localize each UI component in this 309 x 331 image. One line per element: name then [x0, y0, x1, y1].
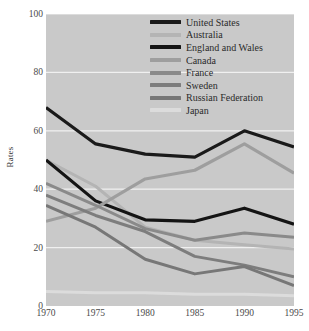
legend-item-label: France: [186, 67, 213, 78]
x-tick-label: 1985: [172, 308, 218, 318]
legend-item-label: Japan: [186, 105, 209, 116]
legend-color-swatch: [150, 58, 181, 62]
legend-item[interactable]: France: [150, 66, 300, 79]
legend-item-label: Canada: [186, 55, 216, 66]
x-tick-label: 1995: [271, 308, 309, 318]
legend-item[interactable]: Canada: [150, 54, 300, 67]
x-tick-label: 1975: [73, 308, 119, 318]
y-tick-label: 40: [13, 184, 43, 194]
y-tick-label: 20: [13, 243, 43, 253]
legend-color-swatch: [150, 33, 181, 37]
x-tick-label: 1990: [221, 308, 267, 318]
legend-color-swatch: [150, 108, 181, 112]
legend-item[interactable]: United States: [150, 16, 300, 29]
legend-item[interactable]: England and Wales: [150, 41, 300, 54]
y-tick-label: 60: [13, 126, 43, 136]
legend-color-swatch: [150, 20, 181, 24]
chart-legend: United StatesAustraliaEngland and WalesC…: [150, 16, 300, 117]
legend-item-label: Australia: [186, 29, 223, 40]
series-line: [46, 160, 294, 224]
legend-item[interactable]: Australia: [150, 29, 300, 42]
x-tick-label: 1980: [122, 308, 168, 318]
y-tick-label: 100: [13, 9, 43, 19]
y-axis-tick-labels: 020406080100: [10, 0, 43, 331]
y-tick-label: 80: [13, 67, 43, 77]
series-line: [46, 291, 294, 295]
legend-item[interactable]: Japan: [150, 104, 300, 117]
line-chart-figure: Rates 020406080100 197019751980198519901…: [0, 0, 309, 331]
legend-color-swatch: [150, 83, 181, 87]
legend-item-label: Russian Federation: [186, 92, 263, 103]
legend-color-swatch: [150, 71, 181, 75]
legend-color-swatch: [150, 45, 181, 49]
legend-item-label: Sweden: [186, 80, 218, 91]
legend-item-label: England and Wales: [186, 42, 263, 53]
legend-color-swatch: [150, 96, 181, 100]
legend-item[interactable]: Russian Federation: [150, 92, 300, 105]
x-tick-label: 1970: [23, 308, 69, 318]
legend-item[interactable]: Sweden: [150, 79, 300, 92]
legend-item-label: United States: [186, 17, 240, 28]
